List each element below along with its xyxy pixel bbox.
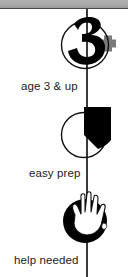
open-hand-icon [58,185,116,243]
number-three-plus-icon [58,14,116,72]
top-band-divider [0,8,128,9]
infographic-panel: age 3 & up easy prep help needed [0,0,128,277]
step-label-help: help needed [12,254,80,268]
step-label-prep: easy prep [27,167,82,181]
pie-clock-quarter-icon [58,104,116,162]
top-gray-band [0,0,128,8]
pie-quadrant-fill [84,107,111,135]
hand-thumb-tip-highlight [102,223,107,229]
step-label-age: age 3 & up [19,80,80,94]
